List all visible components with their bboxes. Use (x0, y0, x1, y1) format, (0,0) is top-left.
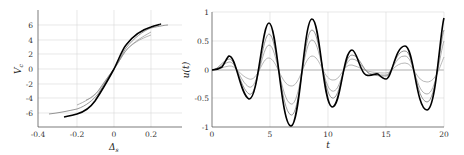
svg-text:4: 4 (28, 36, 33, 45)
right-xlabel: t (326, 140, 330, 150)
right-plot: 1 0.5 0 -0.5 -1 0 5 10 15 20 t u(t) (181, 8, 449, 151)
left-curve-1 (86, 35, 151, 100)
svg-text:1: 1 (204, 8, 209, 17)
svg-text:-0.5: -0.5 (195, 94, 210, 103)
left-xlabel: Δs (108, 142, 119, 153)
svg-text:0: 0 (204, 66, 209, 75)
left-plot: 6 4 2 0 -2 -4 -6 -0.4 -0.2 0 0.2 Δs Vc (13, 10, 182, 153)
svg-text:0: 0 (210, 130, 215, 139)
svg-text:0.2: 0.2 (145, 130, 157, 139)
left-axes (38, 10, 182, 127)
right-xticks: 0 5 10 15 20 (210, 130, 449, 139)
svg-text:-6: -6 (26, 109, 34, 118)
left-ylabel: Vc (13, 64, 24, 75)
svg-text:10: 10 (323, 130, 333, 139)
svg-text:20: 20 (439, 130, 449, 139)
left-curves (49, 24, 168, 117)
left-grid (38, 10, 182, 127)
svg-text:0: 0 (28, 65, 33, 74)
left-xticks: -0.4 -0.2 0 0.2 (31, 130, 157, 139)
svg-text:2: 2 (28, 50, 33, 59)
right-grid (212, 12, 444, 127)
svg-text:15: 15 (381, 130, 391, 139)
svg-text:-4: -4 (26, 94, 34, 103)
svg-text:0.5: 0.5 (197, 37, 209, 46)
svg-text:0: 0 (112, 130, 117, 139)
svg-text:6: 6 (28, 21, 33, 30)
right-yticks: 1 0.5 0 -0.5 -1 (195, 8, 210, 132)
right-ylabel: u(t) (181, 61, 191, 78)
svg-text:5: 5 (268, 130, 273, 139)
left-curve-4-thick (64, 24, 160, 117)
left-curve-3 (49, 25, 168, 114)
svg-text:-0.4: -0.4 (31, 130, 46, 139)
svg-text:-1: -1 (202, 123, 209, 132)
figure: 6 4 2 0 -2 -4 -6 -0.4 -0.2 0 0.2 Δs Vc (0, 0, 464, 155)
svg-text:-0.2: -0.2 (70, 130, 85, 139)
svg-text:-2: -2 (26, 80, 34, 89)
left-yticks: 6 4 2 0 -2 -4 -6 (26, 21, 34, 118)
